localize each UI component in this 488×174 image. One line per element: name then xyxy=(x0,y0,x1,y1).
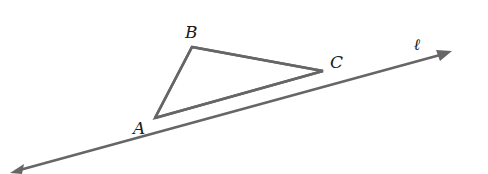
side-bc xyxy=(192,47,323,71)
vertex-label-a: A xyxy=(131,118,145,138)
triangle-abc xyxy=(155,47,323,118)
vertex-label-c: C xyxy=(330,52,343,72)
line-label-l: ℓ xyxy=(413,35,421,54)
vertex-label-b: B xyxy=(184,22,198,42)
arrowhead-left xyxy=(10,164,24,174)
line-l xyxy=(16,55,440,171)
diagram-canvas: ℓ A B C xyxy=(0,0,488,174)
side-ab xyxy=(155,47,192,118)
arrowhead-right xyxy=(436,50,452,61)
